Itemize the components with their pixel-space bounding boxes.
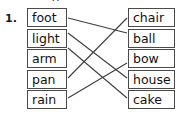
word-box-pan[interactable]: pan — [27, 70, 67, 89]
connection-pan-chair — [68, 18, 127, 78]
word-box-cake[interactable]: cake — [128, 90, 175, 109]
connection-rain-bow — [68, 63, 127, 98]
question-number: 1. — [5, 12, 17, 25]
word-box-house[interactable]: house — [128, 70, 175, 89]
connection-light-house — [68, 33, 127, 78]
word-box-foot[interactable]: foot — [27, 8, 67, 27]
right-column: chair ball bow house cake — [128, 8, 175, 111]
word-box-bow[interactable]: bow — [128, 49, 175, 68]
cropped-glyph-above: g — [52, 0, 60, 1]
connection-arm-cake — [68, 48, 127, 98]
word-box-chair[interactable]: chair — [128, 8, 175, 27]
word-box-ball[interactable]: ball — [128, 29, 175, 48]
matching-exercise: g 1. foot light arm pan rain chair ball … — [0, 0, 180, 118]
left-column: foot light arm pan rain — [27, 8, 67, 111]
connection-foot-ball — [68, 18, 127, 33]
word-box-rain[interactable]: rain — [27, 90, 67, 109]
word-box-arm[interactable]: arm — [27, 49, 67, 68]
word-box-light[interactable]: light — [27, 29, 67, 48]
